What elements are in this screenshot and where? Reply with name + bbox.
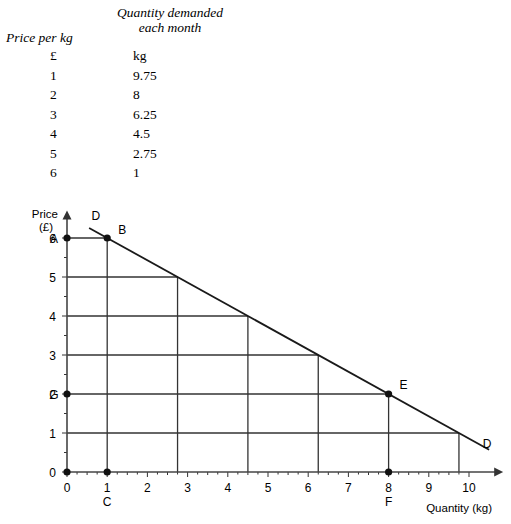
y-tick-label: 6 xyxy=(49,232,56,246)
table-row: 4.5 xyxy=(133,124,193,144)
column-header-quantity-line2: each month xyxy=(110,20,230,35)
column-header-quantity-line1: Quantity demanded xyxy=(110,5,230,20)
x-tick-label: 1 xyxy=(104,481,111,495)
demand-schedule-table: Price per kg Quantity demanded each mont… xyxy=(0,0,260,180)
point-label-e: E xyxy=(400,378,408,392)
table-row: 5 xyxy=(50,144,80,164)
point-label-f: F xyxy=(385,495,392,509)
data-point-marker xyxy=(63,234,70,241)
quantity-unit: kg xyxy=(133,46,193,66)
x-tick-labels: 012345678910 xyxy=(64,481,476,495)
price-unit: £ xyxy=(50,46,80,66)
data-point-marker xyxy=(385,390,392,397)
x-tick-label: 3 xyxy=(184,481,191,495)
curve-labels: DD xyxy=(92,209,492,450)
quantity-column: kg 9.75 8 6.25 4.5 2.75 1 xyxy=(133,46,193,183)
column-header-quantity: Quantity demanded each month xyxy=(110,5,230,35)
table-row: 9.75 xyxy=(133,66,193,86)
y-tick-labels: 0123456 xyxy=(49,232,56,480)
y-tick-label: 2 xyxy=(49,388,56,402)
table-row: 4 xyxy=(50,124,80,144)
table-row: 6.25 xyxy=(133,105,193,125)
y-tick-label: 4 xyxy=(49,310,56,324)
y-tick-label: 1 xyxy=(49,427,56,441)
y-axis-title-line2: (£) xyxy=(39,221,53,233)
x-tick-label: 9 xyxy=(425,481,432,495)
axes xyxy=(67,219,497,472)
x-tick-label: 0 xyxy=(64,481,71,495)
x-tick-label: 4 xyxy=(224,481,231,495)
y-axis-title-line1: Price xyxy=(32,208,58,220)
chart-svg: ABCEFG 012345678910 0123456 DD Quantity … xyxy=(0,180,511,524)
x-axis-arrowhead xyxy=(494,468,503,477)
demand-curve-figure: Price per kg Quantity demanded each mont… xyxy=(0,0,511,524)
point-label-b: B xyxy=(118,223,126,237)
point-labels: ABCEFG xyxy=(49,223,407,509)
column-header-price: Price per kg xyxy=(6,30,73,45)
x-axis-title: Quantity (kg) xyxy=(426,502,492,514)
table-row: 2 xyxy=(50,85,80,105)
x-tick-label: 5 xyxy=(265,481,272,495)
y-tick-label: 3 xyxy=(49,349,56,363)
data-point-marker xyxy=(104,468,111,475)
y-axis-arrowhead xyxy=(63,211,72,220)
price-column: £ 1 2 3 4 5 6 xyxy=(50,46,80,183)
y-tick-label: 5 xyxy=(49,271,56,285)
table-row: 2.75 xyxy=(133,144,193,164)
x-tick-label: 6 xyxy=(305,481,312,495)
demand-curve-label: D xyxy=(483,437,492,451)
table-row: 1 xyxy=(50,66,80,86)
data-point-marker xyxy=(63,468,70,475)
demand-curve-chart: ABCEFG 012345678910 0123456 DD Quantity … xyxy=(0,180,511,524)
y-tick-label: 0 xyxy=(49,466,56,480)
axis-ticks xyxy=(62,238,469,477)
x-tick-label: 10 xyxy=(462,481,476,495)
data-point-marker xyxy=(104,234,111,241)
demand-curve-line xyxy=(89,228,489,450)
table-row: 8 xyxy=(133,85,193,105)
point-label-c: C xyxy=(103,495,112,509)
x-tick-label: 8 xyxy=(385,481,392,495)
x-tick-label: 7 xyxy=(345,481,352,495)
table-row: 3 xyxy=(50,105,80,125)
grid-lines xyxy=(67,238,459,472)
data-point-marker xyxy=(385,468,392,475)
x-tick-label: 2 xyxy=(144,481,151,495)
demand-curve-label: D xyxy=(92,209,101,223)
data-point-marker xyxy=(63,390,70,397)
